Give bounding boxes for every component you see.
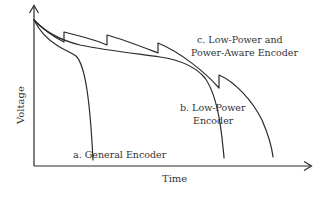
label-general-encoder: a. General Encoder (73, 149, 167, 160)
label-power-aware-encoder-line1: c. Low-Power and (197, 34, 283, 45)
label-power-aware-encoder-line2: Power-Aware Encoder (191, 47, 298, 58)
axes (30, 6, 312, 171)
voltage-time-chart: Voltage Time a. General Encoder b. Low-P… (0, 0, 324, 199)
label-low-power-encoder-line1: b. Low-Power (180, 102, 246, 113)
y-axis-label: Voltage (15, 86, 26, 125)
label-low-power-encoder-line2: Encoder (193, 115, 234, 126)
x-axis-label: Time (162, 173, 187, 184)
